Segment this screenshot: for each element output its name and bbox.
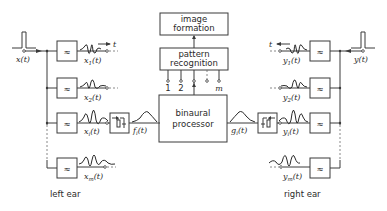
time-arrow-label-left: t — [113, 40, 117, 49]
left-channel-i: ≈ xi(t) fi(t) — [46, 110, 160, 137]
right-channel-label-1: y1(t) — [282, 56, 301, 66]
right-input: y(t) — [340, 32, 375, 64]
left-channel-label-i: xi(t) — [84, 127, 100, 137]
svg-text:≈: ≈ — [316, 47, 323, 57]
channel-connectors: 1 2 m — [165, 70, 223, 95]
image-formation-line2: formation — [173, 23, 214, 33]
left-ear-label: left ear — [50, 189, 81, 199]
binaural-processor-line1: binaural — [176, 108, 211, 118]
arrow-right-icon — [36, 49, 42, 53]
right-ear-label: right ear — [284, 189, 321, 199]
right-channel-i: ≈ yi(t) gi(t) — [227, 110, 341, 137]
left-input-label: x(t) — [16, 55, 30, 64]
arrow-up-icon — [192, 35, 196, 39]
svg-text:≈: ≈ — [63, 119, 70, 129]
right-channel-1: ≈ t y1(t) — [269, 40, 341, 66]
right-channel-m: ≈ ym(t) — [269, 155, 340, 182]
left-channel-2: ≈ x2(t) — [46, 78, 118, 103]
binaural-processor-block: binaural processor — [159, 95, 227, 142]
svg-text:≈: ≈ — [63, 47, 70, 57]
channel-index-m: m — [215, 84, 223, 93]
channel-index-1: 1 — [165, 83, 170, 93]
right-channel-label-2: y2(t) — [282, 93, 301, 103]
right-channel-2: ≈ y2(t) — [270, 78, 341, 103]
channel-index-2: 2 — [178, 83, 183, 93]
left-channel-label-1: x1(t) — [84, 56, 101, 66]
arrow-left-icon — [345, 49, 351, 53]
right-channel-label-i: yi(t) — [282, 127, 299, 137]
svg-text:≈: ≈ — [316, 119, 323, 129]
envelope-label-left: fi(t) — [132, 126, 147, 136]
time-arrow-label-right: t — [269, 40, 273, 49]
svg-text:≈: ≈ — [316, 84, 323, 94]
right-input-label: y(t) — [353, 55, 368, 64]
left-channel-1: ≈ t x1(t) — [46, 40, 118, 66]
left-input: x(t) — [12, 32, 47, 64]
right-channel-label-m: ym(t) — [282, 172, 302, 182]
binaural-processor-line2: processor — [172, 119, 214, 129]
envelope-label-right: gi(t) — [231, 126, 247, 136]
image-formation-block: image formation — [160, 13, 228, 35]
arrow-up-icon — [192, 83, 196, 87]
impulse-icon — [12, 32, 36, 48]
pattern-recognition-block: pattern recognition — [160, 48, 228, 70]
left-channel-label-2: x2(t) — [84, 93, 101, 103]
pattern-recognition-line2: recognition — [170, 58, 218, 68]
binaural-model-diagram: image formation pattern recognition 1 2 … — [0, 0, 387, 211]
svg-text:≈: ≈ — [316, 164, 323, 174]
svg-text:≈: ≈ — [63, 164, 70, 174]
svg-text:≈: ≈ — [63, 84, 70, 94]
impulse-icon — [351, 32, 375, 48]
left-channel-m: ≈ xm(t) — [47, 155, 116, 182]
left-channel-label-m: xm(t) — [84, 172, 103, 182]
